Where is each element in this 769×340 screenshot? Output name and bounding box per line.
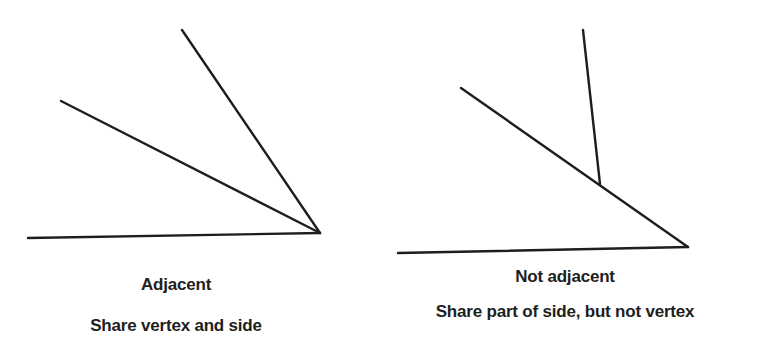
diagram-canvas: Adjacent Share vertex and side Not adjac… xyxy=(0,0,769,340)
adjacent-upper-ray xyxy=(182,30,320,233)
adjacent-base-ray xyxy=(28,233,320,238)
adjacent-title: Adjacent xyxy=(141,275,211,295)
not-adjacent-short-ray xyxy=(583,30,600,184)
not-adjacent-angles-figure xyxy=(398,30,688,253)
not-adjacent-title: Not adjacent xyxy=(515,267,615,287)
adjacent-middle-ray xyxy=(61,101,320,233)
not-adjacent-description: Share part of side, but not vertex xyxy=(436,302,695,322)
angles-illustration xyxy=(0,0,769,340)
adjacent-angles-figure xyxy=(28,30,320,238)
adjacent-description: Share vertex and side xyxy=(90,316,262,336)
not-adjacent-base-ray xyxy=(398,247,688,253)
not-adjacent-long-ray xyxy=(461,88,688,247)
